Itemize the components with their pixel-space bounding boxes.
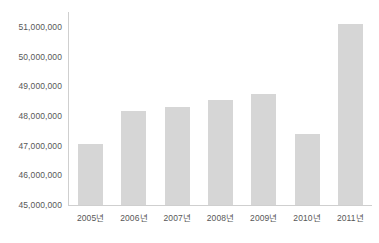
- x-axis-line: [68, 205, 372, 206]
- x-axis-tick-label: 2010년: [293, 211, 320, 223]
- bar: [251, 94, 276, 205]
- bar-chart: 45,000,00046,000,00047,000,00048,000,000…: [0, 0, 379, 243]
- bar: [208, 100, 233, 205]
- bar: [338, 24, 363, 205]
- y-axis-tick-label: 50,000,000: [18, 52, 62, 62]
- y-axis-tick-label: 49,000,000: [18, 81, 62, 91]
- bar: [121, 111, 146, 205]
- x-axis-tick-label: 2005년: [77, 211, 104, 223]
- y-axis-tick-label: 45,000,000: [18, 200, 62, 210]
- x-axis-tick-label: 2006년: [120, 211, 147, 223]
- x-axis-tick-label: 2008년: [207, 211, 234, 223]
- x-axis-tick-label: 2009년: [250, 211, 277, 223]
- y-axis-tick-labels: 45,000,00046,000,00047,000,00048,000,000…: [0, 0, 68, 243]
- bar: [165, 107, 190, 205]
- x-axis-tick-label: 2011년: [337, 211, 364, 223]
- bar: [78, 144, 103, 205]
- y-axis-tick-label: 51,000,000: [18, 22, 62, 32]
- y-axis-tick-label: 46,000,000: [18, 170, 62, 180]
- plot-area: [69, 12, 372, 205]
- x-axis-tick-label: 2007년: [163, 211, 190, 223]
- bar: [295, 134, 320, 205]
- y-axis-tick-label: 48,000,000: [18, 111, 62, 121]
- y-axis-tick-label: 47,000,000: [18, 141, 62, 151]
- x-axis-tick-labels: 2005년2006년2007년2008년2009년2010년2011년: [69, 208, 372, 228]
